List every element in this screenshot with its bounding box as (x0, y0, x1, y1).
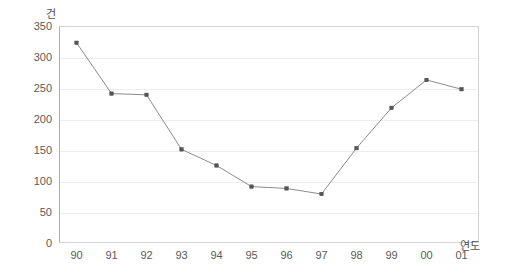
gridline (60, 89, 478, 90)
x-tick-label: 97 (307, 249, 337, 261)
plot-area (59, 26, 479, 243)
gridline (60, 213, 478, 214)
x-tick-label: 90 (62, 249, 92, 261)
x-tick-label: 96 (272, 249, 302, 261)
y-tick-label: 100 (34, 176, 52, 187)
y-tick-label: 150 (34, 145, 52, 156)
x-tick-label: 93 (167, 249, 197, 261)
line-chart: 건 050100150200250300350 9091929394959697… (0, 0, 508, 280)
x-tick-label: 00 (412, 249, 442, 261)
y-axis: 050100150200250300350 (0, 0, 56, 280)
x-tick-label: 95 (237, 249, 267, 261)
x-tick-label: 99 (377, 249, 407, 261)
y-tick-label: 300 (34, 52, 52, 63)
x-axis-unit-label: 연도 (460, 240, 480, 252)
y-tick-label: 350 (34, 21, 52, 32)
x-tick-label: 92 (132, 249, 162, 261)
x-axis: 909192939495969798990001 (0, 249, 508, 269)
y-tick-label: 50 (40, 207, 52, 218)
gridline (60, 151, 478, 152)
x-tick-label: 94 (202, 249, 232, 261)
x-tick-label: 98 (342, 249, 372, 261)
y-tick-label: 200 (34, 114, 52, 125)
gridline (60, 182, 478, 183)
y-tick-label: 250 (34, 83, 52, 94)
gridline (60, 120, 478, 121)
gridline (60, 58, 478, 59)
x-tick-label: 91 (97, 249, 127, 261)
y-tick-label: 0 (46, 238, 52, 249)
